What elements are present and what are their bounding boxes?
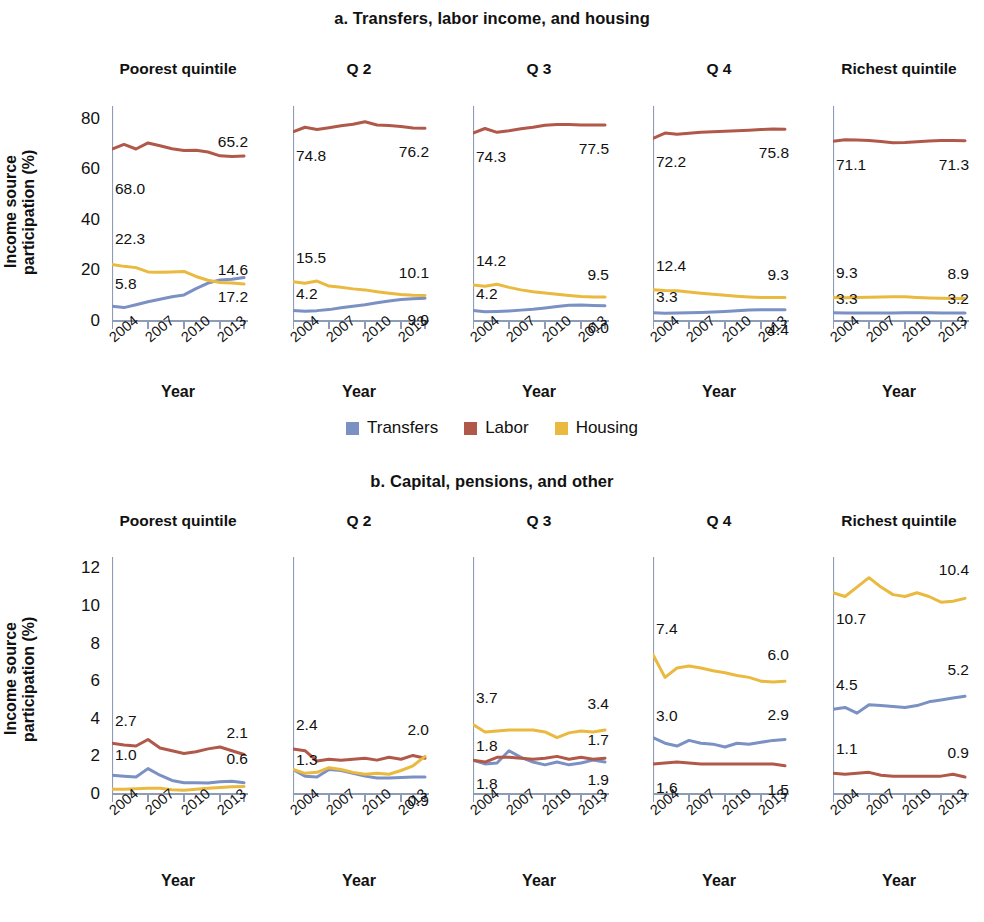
y-tick-label: 0	[54, 311, 100, 331]
data-label-start-labor: 71.1	[836, 156, 866, 174]
panel-b-y-axis-label: Income source participation (%)	[2, 554, 46, 804]
data-label-end-capital: 2.9	[767, 706, 789, 724]
data-label-start-other: 2.4	[296, 716, 318, 734]
subplot-plot-area	[112, 557, 258, 822]
subplot-title-q-2: Q 2	[293, 60, 425, 78]
x-axis-label: Year	[833, 383, 965, 401]
data-label-end-labor: 71.3	[939, 156, 969, 174]
data-label-end-pension: 3.4	[587, 695, 609, 713]
legend-swatch-icon	[464, 422, 477, 435]
y-tick-label: 12	[54, 558, 100, 578]
series-line-labor	[833, 140, 965, 143]
data-label-end-other: 2.1	[226, 724, 248, 742]
x-axis-label: Year	[653, 872, 785, 890]
series-line-other	[833, 772, 965, 777]
data-label-start-other: 1.1	[836, 740, 858, 758]
series-line-pension	[653, 655, 785, 682]
series-line-pension	[473, 724, 605, 737]
data-label-start-housing: 12.4	[656, 257, 686, 275]
legend-label: Housing	[576, 418, 638, 438]
data-label-end-transfers: 17.2	[218, 288, 248, 306]
y-tick-label: 60	[54, 159, 100, 179]
y-tick-label: 4	[54, 709, 100, 729]
data-label-end-pension: 10.4	[939, 561, 969, 579]
subplot-title-richest-quintile: Richest quintile	[833, 512, 965, 530]
data-label-end-capital: 5.2	[947, 661, 969, 679]
data-label-end-capital: 0.6	[226, 750, 248, 768]
x-axis-label: Year	[653, 383, 785, 401]
legend-item-transfers[interactable]: Transfers	[346, 418, 438, 438]
subplot-title-richest-quintile: Richest quintile	[833, 60, 965, 78]
y-tick-label: 20	[54, 260, 100, 280]
subplot-title-q-2: Q 2	[293, 512, 425, 530]
legend-label: Transfers	[367, 418, 438, 438]
subplot-title-q-3: Q 3	[473, 512, 605, 530]
subplot-title-q-4: Q 4	[653, 512, 785, 530]
data-label-start-capital: 1.3	[296, 751, 318, 769]
data-label-start-labor: 72.2	[656, 153, 686, 171]
data-label-end-housing: 9.5	[587, 266, 609, 284]
data-label-end-pension: 2.0	[407, 721, 429, 739]
y-tick-label: 6	[54, 671, 100, 691]
series-line-transfers	[473, 305, 605, 312]
data-label-start-labor: 74.3	[476, 148, 506, 166]
x-axis-label: Year	[473, 872, 605, 890]
series-line-labor	[473, 124, 605, 133]
subplot-title-poorest-quintile: Poorest quintile	[112, 60, 244, 78]
data-label-end-housing: 14.6	[218, 261, 248, 279]
data-label-end-housing: 8.9	[947, 265, 969, 283]
subplot-title-q-4: Q 4	[653, 60, 785, 78]
subplot-plot-area	[653, 106, 799, 349]
y-tick-label: 8	[54, 634, 100, 654]
legend-swatch-icon	[555, 422, 568, 435]
data-label-start-capital: 4.5	[836, 676, 858, 694]
data-label-start-labor: 68.0	[115, 180, 145, 198]
chart-panel-a: a. Transfers, labor income, and housing …	[0, 0, 984, 462]
data-label-start-housing: 22.3	[115, 230, 145, 248]
subplot-title-q-3: Q 3	[473, 60, 605, 78]
data-label-end-housing: 10.1	[399, 264, 429, 282]
series-line-labor	[653, 129, 785, 138]
data-label-start-housing: 14.2	[476, 252, 506, 270]
x-axis-label: Year	[112, 383, 244, 401]
data-label-start-transfers: 3.3	[836, 290, 858, 308]
legend-item-housing[interactable]: Housing	[555, 418, 638, 438]
legend-label: Labor	[485, 418, 528, 438]
data-label-end-housing: 9.3	[767, 266, 789, 284]
series-line-pension	[833, 578, 965, 602]
data-label-end-pension: 6.0	[767, 646, 789, 664]
x-axis-label: Year	[293, 872, 425, 890]
data-label-start-capital: 1.0	[115, 746, 137, 764]
data-label-start-transfers: 3.3	[656, 288, 678, 306]
data-label-start-other: 2.7	[115, 712, 137, 730]
chart-panel-b: b. Capital, pensions, and other Income s…	[0, 462, 984, 922]
series-line-capital	[653, 738, 785, 747]
legend-item-labor[interactable]: Labor	[464, 418, 528, 438]
series-line-capital	[833, 696, 965, 713]
x-axis-label: Year	[833, 872, 965, 890]
panel-a-y-axis-label: Income source participation (%)	[2, 96, 46, 328]
data-label-start-housing: 15.5	[296, 249, 326, 267]
data-label-start-capital: 3.0	[656, 707, 678, 725]
data-label-start-transfers: 4.2	[476, 285, 498, 303]
x-axis-label: Year	[473, 383, 605, 401]
data-label-start-pension: 10.7	[836, 610, 866, 628]
data-label-start-pension: 7.4	[656, 620, 678, 638]
series-line-labor	[293, 122, 425, 132]
y-tick-label: 40	[54, 210, 100, 230]
panel-b-title: b. Capital, pensions, and other	[0, 462, 984, 491]
data-label-end-capital: 1.7	[587, 731, 609, 749]
data-label-start-pension: 3.7	[476, 689, 498, 707]
data-label-start-transfers: 4.2	[296, 285, 318, 303]
data-label-start-housing: 9.3	[836, 264, 858, 282]
data-label-end-transfers: 3.2	[947, 290, 969, 308]
data-label-end-labor: 65.2	[218, 133, 248, 151]
series-line-other	[653, 762, 785, 766]
x-axis-label: Year	[112, 872, 244, 890]
panel-a-title: a. Transfers, labor income, and housing	[0, 0, 984, 28]
y-tick-label: 80	[54, 109, 100, 129]
subplot-title-poorest-quintile: Poorest quintile	[112, 512, 244, 530]
legend-swatch-icon	[346, 422, 359, 435]
subplot-plot-area	[833, 106, 979, 349]
data-label-end-other: 0.9	[947, 744, 969, 762]
